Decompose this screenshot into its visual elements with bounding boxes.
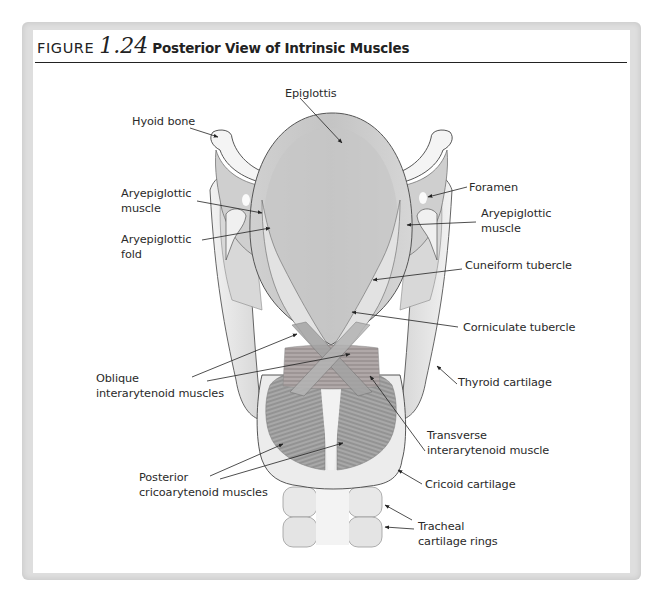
label-cricoid-cartilage: Cricoid cartilage [425,477,516,492]
label-transverse-interarytenoid: Transverse interarytenoid muscle [427,428,549,458]
epiglottis [250,113,412,345]
label-thyroid-cartilage: Thyroid cartilage [458,375,552,390]
label-aryepiglottic-muscle-right: Aryepiglottic muscle [481,206,551,236]
label-corniculate-tubercle: Corniculate tubercle [463,320,575,335]
label-oblique-interarytenoid: Oblique interarytenoid muscles [96,371,224,401]
label-tracheal-cartilage-rings: Tracheal cartilage rings [418,519,498,549]
label-foramen: Foramen [469,180,518,195]
label-posterior-cricoarytenoid: Posterior cricoarytenoid muscles [139,470,268,500]
label-epiglottis: Epiglottis [285,86,337,101]
label-aryepiglottic-fold: Aryepiglottic fold [121,232,191,262]
tracheal-rings [283,485,382,547]
label-cuneiform-tubercle: Cuneiform tubercle [465,258,572,273]
label-aryepiglottic-muscle-left: Aryepiglottic muscle [121,186,191,216]
label-hyoid-bone: Hyoid bone [132,114,195,129]
